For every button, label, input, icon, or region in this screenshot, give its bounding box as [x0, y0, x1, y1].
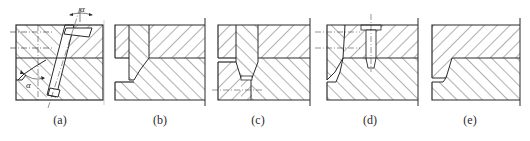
- angle-label-bottom: α: [26, 80, 31, 90]
- panel-e-drawing: [432, 18, 520, 106]
- panel-label-e: (e): [463, 113, 476, 128]
- technical-diagram: α α: [0, 0, 530, 141]
- panel-label-b: (b): [153, 113, 167, 128]
- panel-d-drawing: [315, 14, 418, 106]
- angle-label-top: α: [80, 4, 85, 14]
- panel-label-c: (c): [251, 113, 264, 128]
- panel-b-drawing: [115, 18, 205, 106]
- panel-label-a: (a): [53, 113, 66, 128]
- panel-label-d: (d): [363, 113, 377, 128]
- panel-c-drawing: [212, 18, 310, 106]
- panel-a-drawing: α α: [10, 4, 103, 108]
